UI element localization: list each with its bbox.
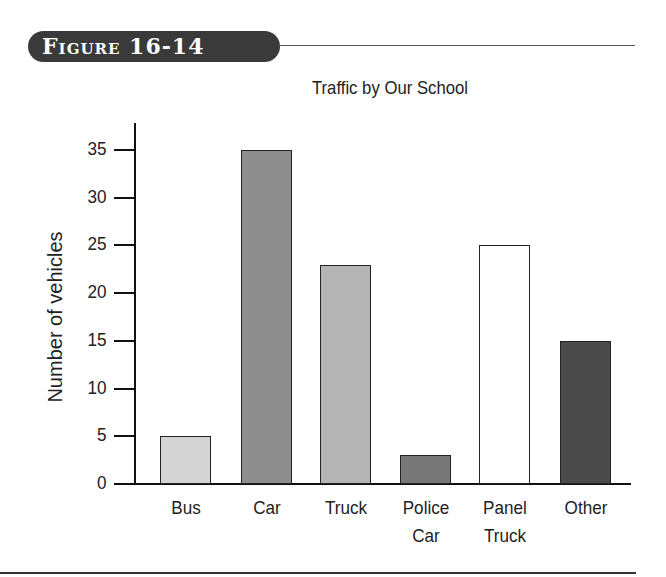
y-axis: [134, 123, 136, 485]
y-tick-label: 10: [80, 378, 107, 398]
y-tick: [114, 197, 134, 199]
y-tick: [114, 388, 134, 390]
y-tick-label: 30: [80, 187, 107, 207]
x-tick-label: PanelTruck: [473, 494, 536, 550]
x-tick-label: Other: [554, 494, 617, 522]
bar-panel-truck: [479, 245, 530, 484]
y-tick-label: 15: [80, 330, 107, 350]
y-tick-label: 0: [80, 473, 107, 493]
x-tick-label: Car: [235, 494, 298, 522]
chart-title: Traffic by Our School: [196, 77, 583, 99]
y-tick-label: 35: [80, 139, 107, 159]
x-tick-label: Bus: [154, 494, 217, 522]
y-tick: [114, 292, 134, 294]
figure-label: Figure 16-14: [28, 31, 280, 62]
y-tick-label: 20: [80, 282, 107, 302]
top-rule: [278, 45, 635, 46]
y-axis-label: Number of vehicles: [44, 231, 67, 402]
y-tick: [114, 483, 134, 485]
y-tick-label: 5: [80, 425, 107, 445]
bar-bus: [160, 436, 211, 484]
bar-police-car: [400, 455, 451, 484]
y-tick-label: 25: [80, 234, 107, 254]
x-tick-label: Truck: [314, 494, 377, 522]
y-tick: [114, 149, 134, 151]
bar-car: [241, 150, 292, 484]
bottom-rule: [0, 572, 636, 574]
y-tick: [114, 435, 134, 437]
y-tick: [114, 340, 134, 342]
x-tick-label: PoliceCar: [394, 494, 457, 550]
bar-truck: [320, 265, 371, 484]
y-tick: [114, 244, 134, 246]
bar-other: [560, 341, 611, 484]
